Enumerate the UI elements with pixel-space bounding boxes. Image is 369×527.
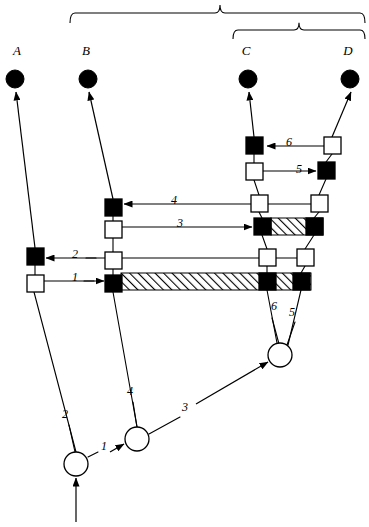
square-c-2 (259, 249, 276, 266)
inner-brace (233, 23, 365, 39)
line-d-3-2 (305, 235, 314, 249)
square-b-2 (105, 252, 122, 269)
square-a-lower (27, 275, 44, 292)
arrow-node-1 (110, 444, 124, 452)
square-a-upper (27, 248, 44, 265)
event-label-4-mid: 4 (171, 193, 177, 207)
square-d-1 (293, 273, 310, 290)
line-d-4-3 (314, 212, 319, 218)
event-label-3-bottom: 3 (181, 400, 188, 414)
circle-node-1 (125, 427, 149, 451)
taxon-terminal-a (6, 70, 24, 88)
event-label-6-lower: 6 (271, 299, 277, 313)
event-label-1-mid: 1 (72, 270, 78, 284)
event-label-3-mid: 3 (176, 216, 183, 230)
line-c-5-4 (254, 180, 259, 195)
line-c-4-3 (259, 212, 262, 218)
square-b-1 (105, 275, 122, 292)
line-3-bottom-tick (149, 417, 180, 434)
line-6-lower-tick (272, 318, 279, 344)
square-d-4 (311, 195, 328, 212)
line-d-2-1 (301, 266, 305, 273)
square-c-5 (246, 163, 263, 180)
line-1-bottom-tick (88, 452, 98, 457)
taxon-terminal-c (239, 70, 257, 88)
square-d-6 (324, 137, 341, 154)
taxon-label-d: D (342, 43, 353, 58)
taxon-terminal-b (79, 70, 97, 88)
taxon-terminal-group: ABCD (6, 43, 359, 88)
square-c-3 (254, 218, 271, 235)
arrow-b-terminal (89, 92, 113, 199)
square-b-3 (105, 221, 122, 238)
line-c-3-2 (262, 235, 267, 249)
taxon-label-a: A (12, 43, 21, 58)
line-5-lower-tick (287, 322, 295, 345)
event-label-4-bottom: 4 (127, 384, 133, 398)
character-square-group (27, 137, 341, 292)
event-label-group: 654321654321 (62, 135, 302, 453)
arrow-c-terminal (249, 92, 254, 137)
square-c-4 (251, 195, 268, 212)
square-b-4 (105, 199, 122, 216)
event-label-5-lower: 5 (289, 305, 295, 319)
square-d-5 (318, 162, 335, 179)
line-d-5-4 (319, 179, 326, 195)
brace-group (70, 5, 365, 39)
circle-root (64, 452, 88, 476)
square-c-1 (259, 273, 276, 290)
taxon-label-b: B (82, 43, 90, 58)
hatched-bar-lower (121, 273, 311, 290)
arrow-a-terminal (16, 92, 35, 248)
event-label-6-top: 6 (286, 135, 292, 149)
line-c-down (267, 290, 277, 343)
line-2-bottom-tick (69, 425, 75, 452)
circle-node-3 (268, 343, 292, 367)
event-label-1-bottom: 1 (101, 439, 107, 453)
pedigree-cladogram-figure: ABCD 654321654321 (0, 0, 369, 527)
outer-brace (70, 5, 365, 23)
square-d-2 (297, 249, 314, 266)
taxon-terminal-d (341, 70, 359, 88)
event-label-2-bottom: 2 (62, 407, 68, 421)
taxon-label-c: C (242, 43, 251, 58)
event-label-5-top: 5 (296, 162, 302, 176)
line-4-bottom-tick (133, 402, 137, 427)
event-label-2-mid: 2 (72, 247, 78, 261)
node-circle-group (64, 343, 292, 476)
square-d-3 (306, 218, 323, 235)
arrow-node-3 (196, 362, 268, 404)
diagram-canvas: ABCD 654321654321 (0, 0, 369, 527)
line-d-6-5 (326, 154, 332, 162)
arrow-d-terminal (332, 92, 351, 137)
square-c-6 (246, 137, 263, 154)
